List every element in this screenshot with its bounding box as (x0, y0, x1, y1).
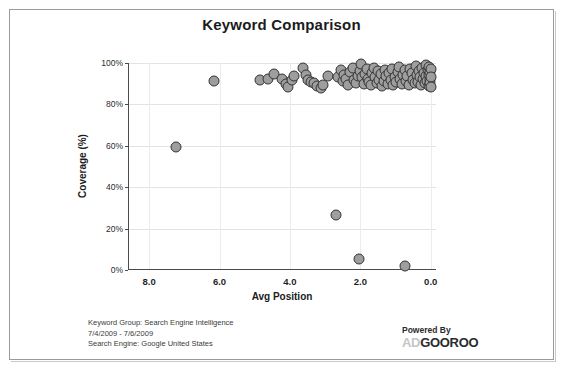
gridline-vertical (431, 63, 432, 270)
gridline-horizontal (128, 229, 436, 230)
x-tick-label: 0.0 (424, 276, 437, 287)
gridline-vertical (149, 63, 150, 270)
gridline-horizontal (128, 187, 436, 188)
y-tick-mark (125, 104, 128, 105)
scatter-point (330, 210, 341, 221)
y-axis-title: Coverage (%) (77, 134, 88, 198)
y-tick-mark (125, 270, 128, 271)
adgooroo-logo: ADGOOROO (402, 336, 478, 350)
y-tick-label: 40% (106, 182, 123, 192)
gridline-vertical (220, 63, 221, 270)
logo-suffix: GOOROO (420, 335, 478, 350)
scatter-point (289, 71, 300, 82)
gridline-horizontal (128, 104, 436, 105)
footer-search-engine: Search Engine: Google United States (88, 339, 234, 350)
x-tick-label: 4.0 (283, 276, 296, 287)
y-tick-label: 80% (106, 99, 123, 109)
footer-keyword-group: Keyword Group: Search Engine Intelligenc… (88, 318, 234, 329)
y-tick-mark (125, 63, 128, 64)
footer-metadata: Keyword Group: Search Engine Intelligenc… (88, 318, 234, 350)
scatter-point (209, 75, 220, 86)
y-tick-mark (125, 229, 128, 230)
x-axis-line (128, 269, 436, 270)
x-tick-label: 2.0 (354, 276, 367, 287)
scatter-point (170, 141, 181, 152)
y-tick-label: 0% (111, 265, 123, 275)
scatter-point (353, 253, 364, 264)
powered-by-label: Powered By (402, 325, 451, 335)
plot-area: 0%20%40%60%80%100% 8.06.04.02.00.0 (128, 63, 436, 270)
plot-background (128, 63, 436, 270)
gridline-vertical (360, 63, 361, 270)
y-tick-label: 100% (101, 58, 123, 68)
chart-screenshot: Keyword Comparison 0%20%40%60%80%100% 8.… (0, 0, 563, 369)
scatter-point (425, 81, 436, 92)
x-axis-title: Avg Position (128, 291, 436, 302)
gridline-vertical (290, 63, 291, 270)
y-tick-label: 60% (106, 141, 123, 151)
chart-title: Keyword Comparison (0, 16, 563, 33)
y-tick-mark (125, 146, 128, 147)
y-tick-label: 20% (106, 224, 123, 234)
scatter-point (400, 260, 411, 271)
y-axis-line (128, 63, 129, 270)
scatter-point (322, 71, 333, 82)
x-tick-label: 8.0 (143, 276, 156, 287)
logo-prefix: AD (402, 335, 420, 350)
footer-date-range: 7/4/2009 - 7/6/2009 (88, 329, 234, 340)
y-tick-mark (125, 187, 128, 188)
x-tick-label: 6.0 (213, 276, 226, 287)
